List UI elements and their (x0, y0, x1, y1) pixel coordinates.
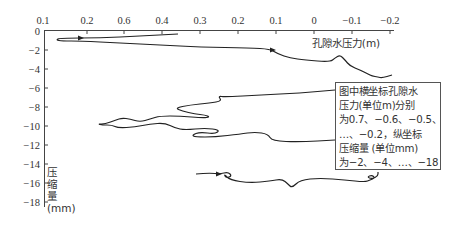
x-tick-label: 0.2 (231, 15, 244, 26)
y-tick-label: −6 (29, 83, 40, 94)
x-ticks: 0.10.20.60.40.30.20.10−0.1−0.2 (36, 15, 399, 34)
series-bottom-path (196, 172, 378, 187)
x-tick-label: −0.2 (380, 15, 399, 26)
x-tick-label: 0.4 (155, 15, 169, 26)
y-tick-label: −4 (29, 64, 41, 75)
y-axis-title-char: 压 (47, 166, 76, 178)
y-tick-label: −8 (29, 102, 40, 113)
x-tick-label: 0 (311, 15, 316, 26)
y-tick-label: 0 (35, 26, 40, 37)
series-middle-tangle (99, 90, 335, 142)
x-tick-label: 0.1 (269, 15, 282, 26)
y-tick-label: −14 (24, 159, 41, 170)
annotation-line: 为−2、−4、…、−18 (339, 156, 438, 170)
y-tick-label: −2 (29, 45, 40, 56)
x-tick-label: 0.2 (80, 15, 93, 26)
y-tick-label: −12 (24, 140, 40, 151)
annotation-box: 图中横坐标孔隙水 压力(单位m)分别 为0.7、−0.6、−0.5、 …、−0.… (335, 82, 441, 170)
annotation-line: 图中横坐标孔隙水 (339, 85, 438, 99)
annotation-line: 压力(单位m)分别 (339, 99, 438, 113)
annotation-line: …、−0.2，纵坐标 (339, 128, 438, 142)
annotation-line: 压缩量 (单位mm) (339, 142, 438, 156)
x-tick-label: 0.6 (117, 15, 130, 26)
y-axis-title-char: 量 (47, 190, 76, 202)
arrow-marker-upper (78, 36, 84, 41)
x-tick-label: −0.1 (342, 15, 361, 26)
y-tick-label: −10 (24, 121, 40, 132)
x-tick-label: 0.1 (36, 15, 49, 26)
x-tick-label: 0.3 (193, 15, 206, 26)
y-tick-label: −16 (24, 178, 40, 189)
y-axis-title: 压 缩 量 (mm) (47, 166, 76, 214)
x-axis-title: 孔隙水压力(m) (312, 37, 380, 49)
y-tick-label: −18 (24, 197, 40, 208)
annotation-line: 为0.7、−0.6、−0.5、 (339, 113, 438, 127)
y-axis-title-unit: (mm) (47, 202, 76, 214)
y-axis-title-char: 缩 (47, 178, 76, 190)
arrow-marker-bottom (216, 172, 222, 177)
